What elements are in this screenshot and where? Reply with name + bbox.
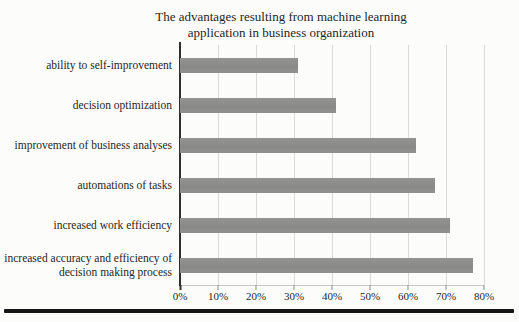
x-tick-label: 80% — [462, 290, 506, 302]
chart-title-line-1: The advantages resulting from machine le… — [121, 9, 441, 25]
category-label: automations of tasks — [0, 165, 177, 205]
bar-row — [180, 165, 484, 205]
document-page: The advantages resulting from machine le… — [0, 0, 519, 322]
bar-automations-of-tasks — [180, 178, 435, 193]
bar-row — [180, 45, 484, 85]
chart-title-line-2: application in business organization — [121, 25, 441, 41]
category-label: improvement of business analyses — [0, 125, 177, 165]
category-label: increased work efficiency — [0, 205, 177, 245]
chart-title: The advantages resulting from machine le… — [121, 9, 441, 41]
category-axis: ability to self-improvement decision opt… — [0, 45, 177, 285]
bar-row — [180, 205, 484, 245]
bar-row — [180, 245, 484, 285]
gridline — [484, 45, 485, 285]
bar-improvement-of-business-analyses — [180, 138, 416, 153]
bar-decision-optimization — [180, 98, 336, 113]
x-axis: 0% 10% 20% 30% 40% 50% 60% 70% 80% — [180, 285, 484, 305]
plot-area — [180, 45, 484, 286]
category-label: decision optimization — [0, 85, 177, 125]
bar-ability-to-self-improvement — [180, 58, 298, 73]
bar-increased-work-efficiency — [180, 218, 450, 233]
page-divider-line — [4, 309, 514, 313]
bar-increased-accuracy-decision-making — [180, 258, 473, 273]
category-label: increased accuracy and efficiency of dec… — [0, 245, 177, 285]
bar-row — [180, 85, 484, 125]
bar-row — [180, 125, 484, 165]
category-label: ability to self-improvement — [0, 45, 177, 85]
